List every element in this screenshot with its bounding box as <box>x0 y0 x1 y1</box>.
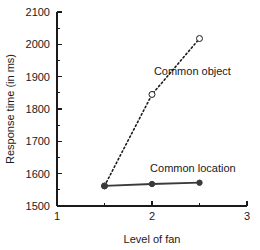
y-tick-label: 1700 <box>26 135 50 147</box>
axis-ticks <box>57 12 247 206</box>
series-annotations: Common objectCommon location <box>150 65 236 174</box>
chart-figure: 1500160017001800190020002100123 Common o… <box>0 0 260 250</box>
y-tick-label: 1800 <box>26 103 50 115</box>
y-tick-label: 1500 <box>26 200 50 212</box>
x-tick-label: 1 <box>54 210 60 222</box>
data-point-marker <box>197 180 202 185</box>
x-axis-title: Level of fan <box>124 233 181 245</box>
x-tick-label: 3 <box>244 210 250 222</box>
y-tick-label: 2000 <box>26 38 50 50</box>
data-point-marker <box>149 181 154 186</box>
y-axis-title: Response time (in ms) <box>4 54 16 164</box>
data-point-marker <box>102 183 107 188</box>
series-label-common-object: Common object <box>154 65 231 77</box>
y-tick-label: 2100 <box>26 6 50 18</box>
y-tick-label: 1600 <box>26 168 50 180</box>
series-common-location <box>102 180 202 189</box>
series-label-common-location: Common location <box>150 162 236 174</box>
data-point-marker <box>149 91 155 97</box>
y-tick-label: 1900 <box>26 71 50 83</box>
response-time-line-chart: 1500160017001800190020002100123 Common o… <box>0 0 260 250</box>
x-tick-label: 2 <box>149 210 155 222</box>
data-point-marker <box>197 36 203 42</box>
axes <box>57 12 247 206</box>
